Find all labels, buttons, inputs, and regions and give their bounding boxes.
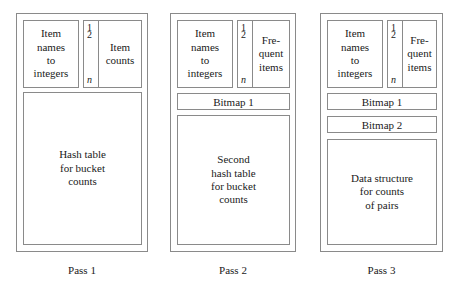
pass-2-item-names-line-3: to xyxy=(178,54,232,67)
pass-3-caption: Pass 3 xyxy=(320,264,443,276)
pass-1-item-counts-line-1: Item xyxy=(99,41,141,54)
pass-1-item-names-line-4: integers xyxy=(24,67,78,80)
pass-2-frequent-line-1: Fre- xyxy=(253,34,289,47)
pass-3-panel: Item names to integers 1 2 n Fre- quent … xyxy=(320,13,443,252)
pass-3-index-strip: 1 2 n xyxy=(387,20,402,88)
pass-1-main-line-3: counts xyxy=(24,175,141,188)
pass-2-frequent-items-box: Fre- quent items xyxy=(252,20,290,88)
pass-2-panel: Item names to integers 1 2 n Fre- quent … xyxy=(170,13,296,252)
pass-2-bitmap-1: Bitmap 1 xyxy=(177,93,290,110)
pass-3-bitmap-1: Bitmap 1 xyxy=(327,93,437,110)
pass-1-item-counts-line-2: counts xyxy=(99,54,141,67)
pass-1-item-names-line-1: Item xyxy=(24,27,78,40)
pass-2-index-last: n xyxy=(241,75,246,86)
pass-3-item-names-box: Item names to integers xyxy=(327,20,383,88)
pass-2-main-line-3: for bucket xyxy=(178,180,289,193)
pass-1-index-second: 2 xyxy=(87,30,92,41)
pass-1-item-names-line-3: to xyxy=(24,54,78,67)
pass-3-bitmap-2: Bitmap 2 xyxy=(327,116,437,133)
pass-1-caption: Pass 1 xyxy=(16,264,148,276)
diagram-canvas: Item names to integers 1 2 n Item counts… xyxy=(0,0,456,295)
pass-2-bitmap-1-label: Bitmap 1 xyxy=(213,96,254,108)
pass-1-main-block: Hash table for bucket counts xyxy=(23,92,142,245)
pass-3-bitmap-2-label: Bitmap 2 xyxy=(362,119,403,131)
pass-2-item-names-box: Item names to integers xyxy=(177,20,233,88)
pass-1-index-last: n xyxy=(87,75,92,86)
pass-1-index-strip: 1 2 n xyxy=(83,20,98,88)
pass-3-item-names-line-3: to xyxy=(328,54,382,67)
pass-1-item-names-line-2: names xyxy=(24,41,78,54)
pass-3-item-names-line-4: integers xyxy=(328,67,382,80)
pass-2-main-line-1: Second xyxy=(178,153,289,166)
pass-1-item-counts-box: Item counts xyxy=(98,20,142,88)
pass-3-main-block: Data structure for counts of pairs xyxy=(327,139,437,245)
pass-2-main-line-2: hash table xyxy=(178,167,289,180)
pass-2-index-strip: 1 2 n xyxy=(237,20,252,88)
pass-2-frequent-line-3: items xyxy=(253,61,289,74)
pass-1-panel: Item names to integers 1 2 n Item counts… xyxy=(16,13,148,252)
pass-3-main-line-2: for counts xyxy=(328,185,436,198)
pass-3-bitmap-1-label: Bitmap 1 xyxy=(362,96,403,108)
pass-3-main-line-3: of pairs xyxy=(328,199,436,212)
pass-3-main-line-1: Data structure xyxy=(328,172,436,185)
pass-2-main-block: Second hash table for bucket counts xyxy=(177,115,290,245)
pass-3-item-names-line-1: Item xyxy=(328,27,382,40)
pass-2-item-names-line-4: integers xyxy=(178,67,232,80)
pass-2-frequent-line-2: quent xyxy=(253,47,289,60)
pass-3-frequent-items-box: Fre- quent items xyxy=(402,20,437,88)
pass-2-main-line-4: counts xyxy=(178,193,289,206)
pass-2-index-second: 2 xyxy=(241,30,246,41)
pass-2-item-names-line-1: Item xyxy=(178,27,232,40)
pass-2-item-names-line-2: names xyxy=(178,41,232,54)
pass-3-frequent-line-2: quent xyxy=(403,47,436,60)
pass-3-index-second: 2 xyxy=(391,30,396,41)
pass-1-main-line-1: Hash table xyxy=(24,148,141,161)
pass-1-main-line-2: for bucket xyxy=(24,162,141,175)
pass-2-caption: Pass 2 xyxy=(170,264,296,276)
pass-3-index-last: n xyxy=(391,75,396,86)
pass-3-item-names-line-2: names xyxy=(328,41,382,54)
pass-3-frequent-line-1: Fre- xyxy=(403,34,436,47)
pass-1-item-names-box: Item names to integers xyxy=(23,20,79,88)
pass-3-frequent-line-3: items xyxy=(403,61,436,74)
